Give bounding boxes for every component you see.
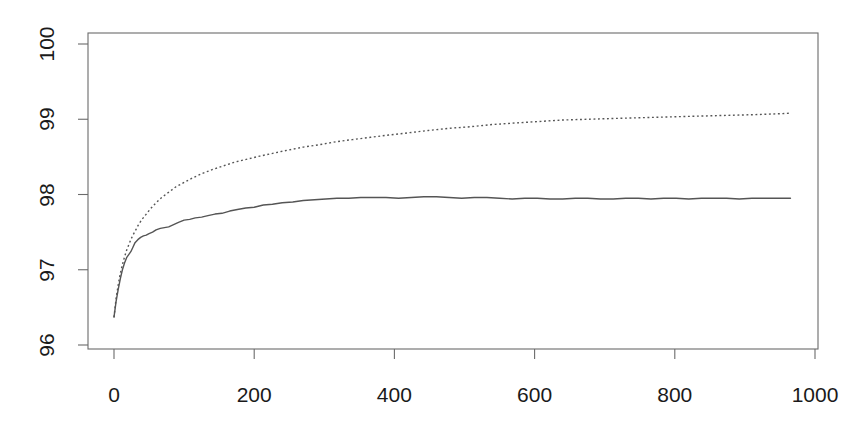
plot-background (0, 0, 860, 429)
chart-figure: 02004006008001000 96979899100 (0, 0, 860, 429)
y-tick-label: 97 (35, 240, 59, 300)
x-tick-label: 0 (74, 383, 154, 407)
plot-area (0, 0, 860, 429)
x-tick-label: 400 (354, 383, 434, 407)
x-tick-label: 1000 (775, 383, 855, 407)
x-tick-label: 200 (214, 383, 294, 407)
y-tick-label: 96 (35, 315, 59, 375)
y-tick-label: 98 (35, 165, 59, 225)
x-tick-label: 600 (495, 383, 575, 407)
x-tick-label: 800 (635, 383, 715, 407)
y-tick-label: 99 (35, 89, 59, 149)
y-tick-label: 100 (35, 14, 59, 74)
